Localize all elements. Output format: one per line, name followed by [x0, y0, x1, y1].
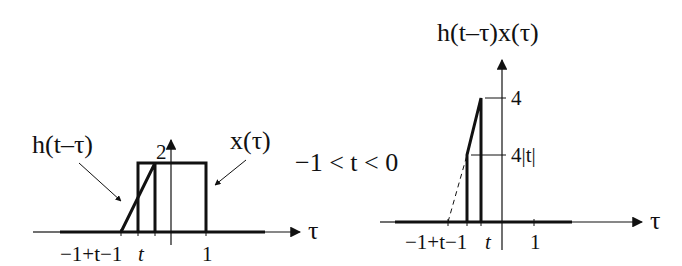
- left-tick-1: 1: [202, 244, 213, 265]
- right-tick-t-minus-1: −1+t−1: [405, 232, 467, 253]
- x-tau-label: x(τ): [230, 128, 271, 154]
- x-pointer-arrow: [215, 160, 246, 185]
- right-tick-t: t: [485, 232, 491, 253]
- h-pointer-arrow: [79, 163, 121, 201]
- right-tick-1: 1: [530, 232, 541, 253]
- height-2-label: 2: [156, 142, 167, 163]
- right-tau-axis-label: τ: [650, 208, 660, 234]
- left-tick-t-minus-1: −1+t−1: [60, 244, 122, 265]
- left-tick-t: t: [138, 244, 144, 265]
- product-title: h(t–τ)x(τ): [437, 20, 539, 46]
- dashed-ramp-extension: [448, 155, 467, 222]
- convolution-diagram: [0, 0, 682, 266]
- h-t-minus-tau-label: h(t–τ): [32, 132, 93, 158]
- product-shape: [467, 98, 481, 222]
- condition-label: −1 < t < 0: [295, 150, 398, 176]
- x-tau-rect: [138, 163, 206, 232]
- step-value-label: 4|t|: [511, 145, 536, 166]
- left-tau-axis-label: τ: [308, 218, 318, 244]
- peak-value-label: 4: [511, 88, 522, 109]
